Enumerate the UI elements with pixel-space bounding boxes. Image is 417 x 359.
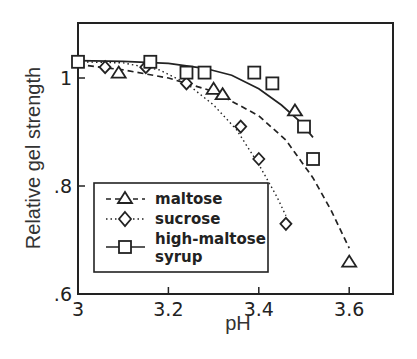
x-axis: 33.23.43.6 (72, 287, 364, 320)
legend-label-high-maltose: high-maltose (155, 230, 266, 248)
square-marker-icon (307, 153, 319, 165)
triangle-marker-icon (288, 104, 302, 115)
square-marker-icon (144, 56, 156, 68)
triangle-marker-icon (207, 83, 221, 94)
y-axis: .6.81 (54, 67, 85, 305)
x-tick-label: 3.2 (153, 298, 183, 320)
diamond-marker-icon (253, 153, 264, 165)
square-marker-icon (180, 67, 192, 79)
gel-strength-chart: .6.81 33.23.43.6 Relative gel strength p… (0, 0, 417, 359)
y-tick-label: .6 (54, 283, 72, 305)
square-marker-icon (266, 77, 278, 89)
square-marker-icon (248, 67, 260, 79)
square-marker-icon (119, 241, 131, 253)
square-marker-icon (199, 67, 211, 79)
diamond-marker-icon (280, 218, 291, 230)
x-tick-label: 3.6 (334, 298, 364, 320)
square-marker-icon (72, 56, 84, 68)
x-tick-label: 3 (72, 298, 84, 320)
legend-label-maltose: maltose (155, 190, 222, 208)
legend-label-sucrose: sucrose (155, 210, 220, 228)
fit-line-high-maltose-syrup (78, 61, 313, 138)
square-marker-icon (298, 121, 310, 133)
legend-label-syrup: syrup (155, 248, 203, 266)
triangle-marker-icon (342, 256, 356, 267)
legend: maltose sucrose high-maltose syrup (94, 183, 268, 272)
x-axis-title: pH (225, 312, 251, 334)
y-axis-title: Relative gel strength (22, 67, 44, 249)
diamond-marker-icon (235, 121, 246, 133)
y-tick-label: 1 (60, 67, 72, 89)
y-tick-label: .8 (54, 175, 72, 197)
